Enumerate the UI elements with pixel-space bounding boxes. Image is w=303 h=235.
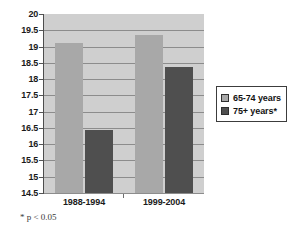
legend-item-series-1: 65-74 years	[221, 91, 281, 104]
y-axis-tick-label: 18	[0, 75, 38, 84]
y-axis-tick-label: 15.5	[0, 156, 38, 165]
bar-chart: 2019.51918.51817.51716.51615.51514.5 198…	[0, 0, 303, 235]
y-axis-tick-label: 15	[0, 173, 38, 182]
chart-footnote: * p < 0.05	[20, 212, 57, 222]
bar-65-74-years-1988-1994	[55, 43, 83, 193]
y-axis-tick-label: 20	[0, 10, 38, 19]
y-axis-tick-label: 17.5	[0, 91, 38, 100]
legend-label-series-1: 65-74 years	[233, 93, 281, 103]
y-axis-tick-mark	[39, 95, 43, 96]
legend-swatch-icon-series-1	[221, 94, 229, 102]
y-axis-tick-mark	[39, 193, 43, 194]
y-axis-tick-mark	[39, 144, 43, 145]
bar-65-74-years-1999-2004	[135, 35, 163, 193]
y-axis-tick-mark	[39, 47, 43, 48]
y-axis-tick-mark	[39, 112, 43, 113]
bar-75-years--1999-2004	[165, 67, 193, 193]
y-axis-tick-mark	[39, 79, 43, 80]
y-axis-tick-label: 16.5	[0, 124, 38, 133]
x-axis-tick-label: 1999-2004	[124, 197, 204, 207]
legend-label-series-2: 75+ years*	[233, 106, 277, 116]
gridline	[44, 193, 204, 194]
y-axis-tick-mark	[39, 14, 43, 15]
y-axis-tick-label: 19.5	[0, 26, 38, 35]
y-axis-tick-label: 19	[0, 43, 38, 52]
y-axis-tick-mark	[39, 128, 43, 129]
y-axis-tick-label: 14.5	[0, 189, 38, 198]
y-axis-tick-mark	[39, 160, 43, 161]
y-axis-tick-label: 16	[0, 140, 38, 149]
chart-legend: 65-74 years 75+ years*	[216, 86, 287, 122]
y-axis-tick-mark	[39, 30, 43, 31]
y-axis-tick-label: 18.5	[0, 59, 38, 68]
legend-swatch-icon-series-2	[221, 107, 229, 115]
x-axis-tick-label: 1988-1994	[44, 197, 124, 207]
y-axis-tick-label: 17	[0, 108, 38, 117]
y-axis: 2019.51918.51817.51716.51615.51514.5	[0, 0, 38, 200]
legend-item-series-2: 75+ years*	[221, 104, 281, 117]
y-axis-tick-mark	[39, 63, 43, 64]
bars-layer	[44, 14, 204, 193]
y-axis-tick-mark	[39, 177, 43, 178]
bar-75-years--1988-1994	[85, 130, 113, 193]
plot-area	[44, 14, 204, 193]
